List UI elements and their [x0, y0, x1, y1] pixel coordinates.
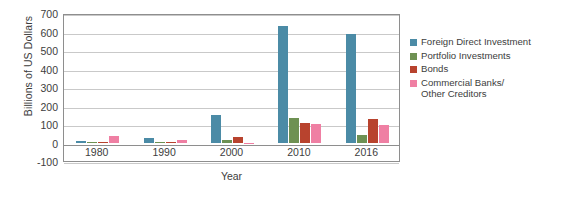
bar [144, 138, 154, 142]
y-axis-tick-label: 400 [22, 64, 58, 76]
legend-item-label: Bonds [421, 63, 448, 75]
bar [98, 142, 108, 143]
bar-group [64, 15, 131, 161]
bar-group [266, 15, 333, 161]
y-axis-tick-label: 200 [22, 101, 58, 113]
bar [233, 137, 243, 143]
y-axis-tick-label: 0 [22, 138, 58, 150]
y-axis-tick-label: 700 [22, 8, 58, 20]
bar [211, 115, 221, 143]
bar [109, 136, 119, 142]
legend-item-label: Portfolio Investments [421, 50, 511, 62]
bar [87, 142, 97, 143]
plot-area [63, 14, 400, 162]
y-axis-tick-label: 100 [22, 119, 58, 131]
bar [346, 34, 356, 142]
bar-group [131, 15, 198, 161]
legend-item: Foreign Direct Investment [410, 36, 562, 48]
bar [76, 141, 86, 142]
legend-item-label: Commercial Banks/ Other Creditors [421, 77, 504, 100]
bar-group [199, 15, 266, 161]
x-axis-tick-labels: 19801990200020102016 [63, 146, 400, 162]
bar [300, 123, 310, 142]
bar [311, 124, 321, 143]
x-axis-tick-label: 2000 [198, 146, 265, 158]
x-axis-title: Year [63, 170, 400, 182]
legend-swatch-icon [410, 80, 417, 87]
legend-swatch-icon [410, 66, 417, 73]
y-axis-tick-labels: 7006005004003002001000-100 [22, 14, 58, 162]
legend-swatch-icon [410, 39, 417, 46]
y-axis-tick-label: -100 [22, 156, 58, 168]
bar [222, 140, 232, 143]
x-axis-tick-label: 1980 [63, 146, 130, 158]
legend-item: Commercial Banks/ Other Creditors [410, 77, 562, 100]
bar [368, 119, 378, 142]
bar [177, 140, 187, 143]
gridline [64, 163, 399, 164]
y-axis-tick-label: 600 [22, 27, 58, 39]
legend-item: Portfolio Investments [410, 50, 562, 62]
bar-chart-figure: Billions of US Dollars 70060050040030020… [0, 0, 567, 202]
x-axis-tick-label: 2016 [333, 146, 400, 158]
bar-groups [64, 15, 399, 161]
legend-item: Bonds [410, 63, 562, 75]
legend-item-label: Foreign Direct Investment [421, 36, 531, 48]
bar [357, 135, 367, 142]
bar [379, 125, 389, 143]
x-axis-tick-label: 1990 [130, 146, 197, 158]
x-axis-tick-label: 2010 [265, 146, 332, 158]
legend-swatch-icon [410, 53, 417, 60]
y-axis-tick-label: 500 [22, 45, 58, 57]
bar [278, 26, 288, 142]
chart-legend: Foreign Direct InvestmentPortfolio Inves… [410, 36, 562, 102]
bar [244, 143, 254, 145]
bar [166, 142, 176, 143]
bar-group [334, 15, 401, 161]
y-axis-tick-label: 300 [22, 82, 58, 94]
bar [289, 118, 299, 142]
bar [155, 142, 165, 143]
